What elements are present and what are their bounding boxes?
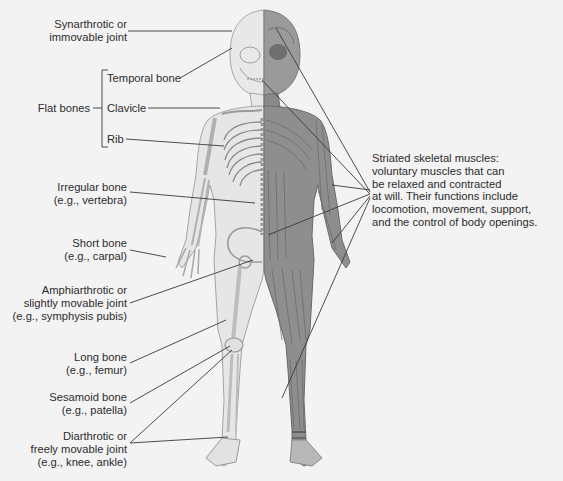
label-long-bone: Long bone (e.g., femur) [66, 351, 127, 377]
desc-line: locomotion, movement, support, [372, 203, 537, 216]
label-line: (e.g., femur) [66, 364, 127, 377]
label-line: immovable joint [49, 31, 127, 44]
label-rib: Rib [107, 133, 124, 146]
label-line: Flat bones [38, 102, 90, 115]
label-line: slightly movable joint [13, 297, 127, 310]
desc-line: be relaxed and contracted [372, 178, 537, 191]
label-line: (e.g., carpal) [64, 250, 127, 263]
label-line: (e.g., patella) [49, 404, 127, 417]
label-line: Irregular bone [54, 181, 127, 194]
label-line: (e.g., knee, ankle) [31, 456, 127, 469]
label-line: Short bone [64, 237, 127, 250]
anatomy-diagram: Synarthrotic or immovable joint Temporal… [0, 0, 563, 481]
label-line: Rib [107, 133, 124, 146]
label-amphiarthrotic-joint: Amphiarthrotic or slightly movable joint… [13, 284, 127, 323]
label-line: Clavicle [107, 102, 146, 115]
label-line: Sesamoid bone [49, 391, 127, 404]
skeleton-half [176, 10, 264, 466]
label-synarthrotic-joint: Synarthrotic or immovable joint [49, 18, 127, 44]
label-irregular-bone: Irregular bone (e.g., vertebra) [54, 181, 127, 207]
desc-line: and the control of body openings. [372, 216, 537, 229]
label-line: (e.g., symphysis pubis) [13, 310, 127, 323]
label-line: Amphiarthrotic or [13, 284, 127, 297]
label-sesamoid-bone: Sesamoid bone (e.g., patella) [49, 391, 127, 417]
label-clavicle: Clavicle [107, 102, 146, 115]
label-line: freely movable joint [31, 443, 127, 456]
muscle-half [264, 10, 350, 466]
label-flat-bones: Flat bones [38, 102, 90, 115]
label-diarthrotic-joint: Diarthrotic or freely movable joint (e.g… [31, 430, 127, 469]
desc-line: voluntary muscles that can [372, 165, 537, 178]
label-line: (e.g., vertebra) [54, 194, 127, 207]
label-line: Temporal bone [107, 72, 181, 85]
desc-line: at will. Their functions include [372, 190, 537, 203]
desc-line: Striated skeletal muscles: [372, 152, 537, 165]
label-line: Diarthrotic or [31, 430, 127, 443]
label-striated-skeletal-muscles: Striated skeletal muscles: voluntary mus… [372, 152, 537, 229]
label-temporal-bone: Temporal bone [107, 72, 181, 85]
label-line: Long bone [66, 351, 127, 364]
label-line: Synarthrotic or [49, 18, 127, 31]
label-short-bone: Short bone (e.g., carpal) [64, 237, 127, 263]
